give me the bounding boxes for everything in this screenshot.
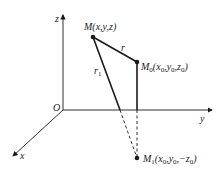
segment-r xyxy=(93,37,137,62)
point-m1 xyxy=(135,156,140,161)
r1-label: r1 xyxy=(94,66,101,78)
y-axis-label: y xyxy=(200,114,204,124)
segment-r1-dashed xyxy=(120,110,137,158)
point-m1-label: M1(x0,y0,−z0) xyxy=(143,154,197,166)
point-m xyxy=(91,35,96,40)
r-label: r xyxy=(121,43,125,53)
z-axis-label: z xyxy=(55,14,59,24)
point-m0-label: M0(x0,y0,z0) xyxy=(141,62,188,74)
point-m-label: M(x,y,z) xyxy=(84,22,116,32)
point-m0 xyxy=(135,60,140,65)
x-axis-label: x xyxy=(20,151,24,161)
origin-label: O xyxy=(53,103,60,113)
